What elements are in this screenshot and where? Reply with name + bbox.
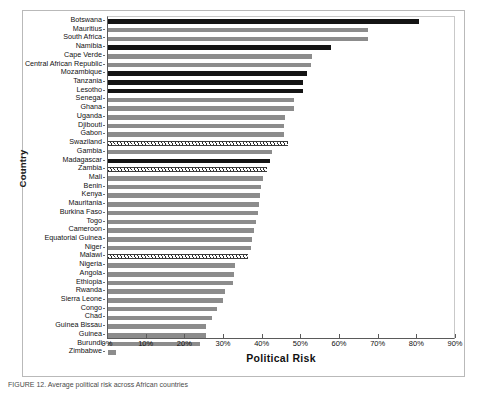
x-tick-70pct: 70%: [358, 339, 398, 348]
bar-chad[interactable]: [108, 316, 212, 321]
x-tick-mark: [262, 334, 263, 338]
bar-equatorial-guinea[interactable]: [108, 237, 252, 242]
y-tick-mark: [103, 37, 106, 38]
bar-benin[interactable]: [108, 185, 261, 190]
y-tick-mark: [103, 55, 106, 56]
bar-row: [108, 174, 454, 183]
x-tick-0pct: 0%: [87, 339, 127, 348]
bar-congo[interactable]: [108, 307, 217, 312]
bar-guinea[interactable]: [108, 333, 206, 338]
bar-guinea-bissau[interactable]: [108, 324, 206, 329]
bar-mauritania[interactable]: [108, 202, 259, 207]
x-tick-50pct: 50%: [280, 339, 320, 348]
bar-zambia[interactable]: [108, 167, 267, 172]
y-tick-mark: [103, 151, 106, 152]
bar-niger[interactable]: [108, 246, 251, 251]
bar-lesotho[interactable]: [108, 89, 303, 94]
x-tick-10pct: 10%: [126, 339, 166, 348]
y-tick-mark: [103, 186, 106, 187]
bar-cameroon[interactable]: [108, 228, 254, 233]
bar-kenya[interactable]: [108, 193, 260, 198]
y-tick-mark: [103, 334, 106, 335]
x-tick-mark: [223, 334, 224, 338]
bar-row: [108, 183, 454, 192]
y-tick-label-zimbabwe: Zimbabwe: [24, 347, 105, 356]
y-tick-mark: [103, 142, 106, 143]
bar-burkina-faso[interactable]: [108, 211, 258, 216]
y-tick-mark: [103, 160, 106, 161]
y-tick-mark: [103, 107, 106, 108]
bar-angola[interactable]: [108, 272, 234, 277]
x-tick-60pct: 60%: [319, 339, 359, 348]
x-axis-ticks: 0%10%20%30%40%50%60%70%80%90%: [107, 339, 455, 353]
bar-togo[interactable]: [108, 220, 256, 225]
bar-mali[interactable]: [108, 176, 263, 181]
bar-row: [108, 191, 454, 200]
bar-row: [108, 104, 454, 113]
plot-area: [107, 16, 455, 339]
bar-uganda[interactable]: [108, 115, 285, 120]
bar-row: [108, 139, 454, 148]
x-tick-mark: [300, 334, 301, 338]
y-tick-mark: [103, 273, 106, 274]
bar-row: [108, 296, 454, 305]
bar-central-african-republic[interactable]: [108, 63, 311, 68]
bar-mauritius[interactable]: [108, 28, 368, 33]
y-tick-mark: [103, 81, 106, 82]
x-tick-80pct: 80%: [396, 339, 436, 348]
y-tick-mark: [103, 125, 106, 126]
bar-row: [108, 313, 454, 322]
bar-cape-verde[interactable]: [108, 54, 312, 59]
y-tick-mark: [103, 316, 106, 317]
bar-row: [108, 244, 454, 253]
bar-row: [108, 252, 454, 261]
y-tick-mark: [103, 221, 106, 222]
bar-madagascar[interactable]: [108, 159, 270, 164]
bar-row: [108, 122, 454, 131]
y-tick-mark: [103, 247, 106, 248]
y-tick-mark: [103, 299, 106, 300]
bar-row: [108, 43, 454, 52]
x-tick-mark: [146, 334, 147, 338]
bar-row: [108, 61, 454, 70]
bar-rows: [108, 17, 454, 338]
bar-sierra-leone[interactable]: [108, 298, 223, 303]
x-axis-title: Political Risk: [107, 352, 455, 364]
y-tick-mark: [103, 282, 106, 283]
bar-row: [108, 113, 454, 122]
bar-row: [108, 287, 454, 296]
bar-row: [108, 270, 454, 279]
bar-south-africa[interactable]: [108, 37, 368, 42]
bar-gambia[interactable]: [108, 150, 272, 155]
bar-senegal[interactable]: [108, 98, 294, 103]
bar-nigeria[interactable]: [108, 263, 235, 268]
bar-botswana[interactable]: [108, 19, 419, 24]
x-tick-mark: [378, 334, 379, 338]
figure-container: Country BotswanaMauritiusSouth AfricaNam…: [0, 0, 488, 396]
bar-row: [108, 261, 454, 270]
bar-row: [108, 17, 454, 26]
bar-ghana[interactable]: [108, 106, 294, 111]
bar-namibia[interactable]: [108, 45, 331, 50]
bar-tanzania[interactable]: [108, 80, 303, 85]
x-tick-mark: [184, 334, 185, 338]
y-tick-mark: [103, 116, 106, 117]
bar-mozambique[interactable]: [108, 71, 307, 76]
y-tick-mark: [103, 325, 106, 326]
y-tick-mark: [103, 72, 106, 73]
bar-row: [108, 218, 454, 227]
bar-row: [108, 148, 454, 157]
figure-caption: FIGURE 12. Average political risk across…: [8, 381, 480, 395]
bar-row: [108, 130, 454, 139]
bar-swaziland[interactable]: [108, 141, 288, 146]
bar-rwanda[interactable]: [108, 289, 225, 294]
bar-malawi[interactable]: [108, 254, 248, 259]
bar-ethiopia[interactable]: [108, 281, 233, 286]
bar-djibouti[interactable]: [108, 124, 284, 129]
bar-gabon[interactable]: [108, 132, 284, 137]
bar-row: [108, 235, 454, 244]
bar-row: [108, 69, 454, 78]
y-tick-mark: [103, 20, 106, 21]
y-axis-tick-labels: BotswanaMauritiusSouth AfricaNamibiaCape…: [24, 16, 105, 339]
x-tick-mark: [107, 334, 108, 338]
